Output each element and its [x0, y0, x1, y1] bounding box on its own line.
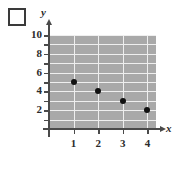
gridline-horizontal [49, 82, 156, 83]
gridline-horizontal [49, 91, 156, 92]
y-tick-label-text: 6 [20, 66, 42, 78]
data-point [71, 79, 77, 85]
y-axis-tick [44, 120, 49, 122]
x-tick-label: 3 [113, 137, 133, 149]
x-tick-label: 1 [64, 137, 84, 149]
gridline-horizontal [49, 44, 156, 45]
y-axis-tick [44, 91, 49, 93]
x-axis-tick [123, 129, 125, 134]
y-tick-label-text: 2 [20, 103, 42, 115]
gridline-horizontal [49, 73, 156, 74]
x-tick-label: 4 [137, 137, 157, 149]
x-axis-tick [98, 129, 100, 134]
y-axis-label: y [41, 6, 46, 18]
y-axis-arrow-icon [46, 19, 52, 25]
gridline-horizontal [49, 120, 156, 121]
gridline-horizontal [49, 110, 156, 111]
gridline-vertical [98, 35, 99, 129]
y-tick-label-text: 8 [20, 47, 42, 59]
x-axis-line [43, 128, 161, 130]
y-axis-tick [44, 73, 49, 75]
chart-screenshot: y x 2468101234 [0, 0, 178, 170]
y-axis-tick [44, 63, 49, 65]
y-axis-tick [44, 101, 49, 103]
y-tick-label-text: 10 [20, 28, 42, 40]
x-axis-tick [74, 129, 76, 134]
plot-area [49, 35, 156, 129]
y-axis-tick [44, 54, 49, 56]
x-axis-tick [147, 129, 149, 134]
scatter-plot: y x 2468101234 [0, 0, 178, 170]
y-tick-label-text: 4 [20, 84, 42, 96]
gridline-horizontal [49, 101, 156, 102]
y-axis-tick [44, 35, 49, 37]
gridline-horizontal [49, 63, 156, 64]
data-point [120, 98, 126, 104]
gridline-horizontal [49, 35, 156, 36]
y-axis-tick [44, 110, 49, 112]
x-axis-label: x [166, 122, 172, 134]
x-tick-label: 2 [88, 137, 108, 149]
y-axis-tick [44, 82, 49, 84]
gridline-vertical [147, 35, 148, 129]
gridline-horizontal [49, 54, 156, 55]
y-axis-tick [44, 44, 49, 46]
gridline-vertical [123, 35, 124, 129]
